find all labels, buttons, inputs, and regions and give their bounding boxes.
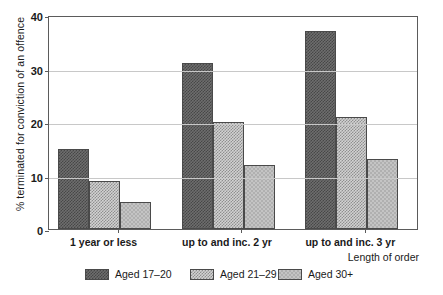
y-axis-tick-label: 20 bbox=[31, 118, 43, 130]
x-axis-title: Length of order bbox=[348, 251, 419, 263]
plot-area: 010203040 bbox=[48, 16, 418, 230]
gridline bbox=[49, 178, 417, 179]
x-axis-category-label: 1 year or less bbox=[34, 236, 174, 248]
bars-layer bbox=[49, 17, 417, 229]
y-axis-tick-mark bbox=[45, 231, 49, 232]
x-axis-category-label: up to and inc. 2 yr bbox=[157, 236, 297, 248]
gridline bbox=[49, 124, 417, 125]
bar bbox=[305, 31, 336, 229]
legend-label: Aged 17–20 bbox=[115, 268, 172, 280]
legend-label: Aged 30+ bbox=[308, 268, 353, 280]
y-axis-tick-mark bbox=[45, 178, 49, 179]
x-axis-category-label: up to and inc. 3 yr bbox=[280, 236, 420, 248]
bar-chart: % terminated for conviction of an offenc… bbox=[0, 0, 443, 295]
y-axis-tick-mark bbox=[45, 71, 49, 72]
legend-item[interactable]: Aged 17–20 bbox=[85, 268, 172, 280]
bar bbox=[367, 159, 398, 229]
y-axis-tick-label: 10 bbox=[31, 172, 43, 184]
bar bbox=[58, 149, 89, 229]
y-axis-tick-mark bbox=[45, 124, 49, 125]
legend-swatch-icon bbox=[190, 269, 214, 280]
bar bbox=[244, 165, 275, 229]
gridline bbox=[49, 71, 417, 72]
legend-swatch-icon bbox=[278, 269, 302, 280]
x-axis-tick-mark bbox=[118, 229, 119, 233]
bar bbox=[89, 181, 120, 229]
y-axis-tick-label: 30 bbox=[31, 65, 43, 77]
y-axis-tick-mark bbox=[45, 17, 49, 18]
legend-item[interactable]: Aged 21–29 bbox=[190, 268, 277, 280]
bar bbox=[213, 122, 244, 229]
legend-item[interactable]: Aged 30+ bbox=[278, 268, 353, 280]
bar bbox=[120, 202, 151, 229]
legend-swatch-icon bbox=[85, 269, 109, 280]
y-axis-tick-label: 40 bbox=[31, 11, 43, 23]
bar bbox=[182, 63, 213, 229]
y-axis-title: % terminated for conviction of an offenc… bbox=[14, 0, 26, 229]
chart-legend: Aged 17–20Aged 21–29Aged 30+ bbox=[48, 268, 418, 284]
x-axis-tick-mark bbox=[241, 229, 242, 233]
bar bbox=[336, 117, 367, 229]
legend-label: Aged 21–29 bbox=[220, 268, 277, 280]
x-axis-tick-mark bbox=[365, 229, 366, 233]
